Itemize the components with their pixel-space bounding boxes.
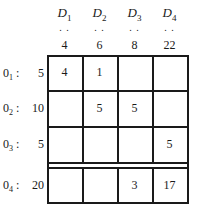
supply-o2: 10 xyxy=(32,101,44,116)
cell-o4-d4: 17 xyxy=(152,178,187,193)
allocation-grid: 4 1 5 5 5 3 17 xyxy=(47,55,187,203)
column-header-d4: D4 xyxy=(152,5,187,23)
cell-o1-d2: 1 xyxy=(82,65,117,80)
cell-o2-d2: 5 xyxy=(82,101,117,116)
grid-line xyxy=(82,167,84,203)
cell-o2-d3: 5 xyxy=(117,101,152,116)
demand-d4: 22 xyxy=(152,38,187,53)
column-dots: . . xyxy=(47,22,82,33)
cell-o1-d1: 4 xyxy=(47,65,82,80)
supply-o4: 20 xyxy=(32,178,44,193)
demand-d1: 4 xyxy=(47,38,82,53)
column-dots: . . xyxy=(152,22,187,33)
grid-line xyxy=(187,55,189,204)
column-dots: . . xyxy=(117,22,152,33)
column-dots: . . xyxy=(82,22,117,33)
supply-o3: 5 xyxy=(38,137,44,152)
supply-o1: 5 xyxy=(38,66,44,81)
column-header-d3: D3 xyxy=(117,5,152,23)
cell-o3-d4: 5 xyxy=(152,137,187,152)
cell-o4-d3: 3 xyxy=(117,178,152,193)
demand-d3: 8 xyxy=(117,38,152,53)
column-header-d2: D2 xyxy=(82,5,117,23)
demand-d2: 6 xyxy=(82,38,117,53)
column-header-d1: D1 xyxy=(47,5,82,23)
